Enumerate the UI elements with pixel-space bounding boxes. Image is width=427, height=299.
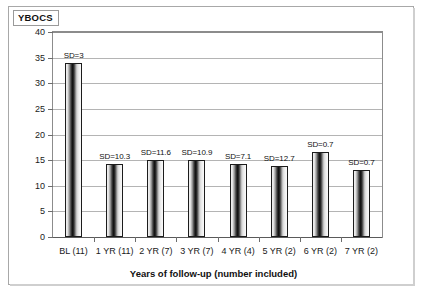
bar-sd-annotation: SD=12.7 — [264, 154, 295, 163]
y-axis-tick-label: 40 — [5, 27, 45, 37]
bar-sd-annotation: SD=10.3 — [99, 152, 130, 161]
x-axis-tick — [218, 237, 219, 242]
gridline — [53, 32, 382, 33]
y-axis-tick-label: 25 — [5, 104, 45, 114]
chart-title: YBOCS — [18, 12, 53, 23]
bar — [271, 166, 288, 237]
x-axis-category-label: BL (11) — [59, 246, 88, 256]
y-axis-tick-label: 35 — [5, 53, 45, 63]
x-axis-tick — [176, 237, 177, 242]
x-axis-category-label: 3 YR (7) — [180, 246, 213, 256]
y-axis-tick-label: 5 — [5, 206, 45, 216]
x-axis-tick — [341, 237, 342, 242]
gridline — [53, 211, 382, 212]
x-axis-category-label: 1 YR (11) — [96, 246, 134, 256]
y-axis-tick-label: 0 — [5, 232, 45, 242]
bar-sd-annotation: SD=10.9 — [182, 148, 213, 157]
x-axis-tick — [135, 237, 136, 242]
y-axis-tick — [48, 109, 53, 110]
y-axis-tick — [48, 83, 53, 84]
x-axis-title-label: Years of follow-up (number included) — [130, 268, 297, 279]
y-axis-tick — [48, 160, 53, 161]
x-axis-tick — [300, 237, 301, 242]
y-axis-tick — [48, 135, 53, 136]
y-axis-tick — [48, 32, 53, 33]
y-axis-tick — [48, 237, 53, 238]
bar — [147, 160, 164, 237]
x-axis-category-label: 7 YR (2) — [345, 246, 378, 256]
bar — [230, 164, 247, 237]
gridline — [53, 186, 382, 187]
y-axis-tick — [48, 186, 53, 187]
bar — [312, 152, 329, 237]
x-axis-tick — [94, 237, 95, 242]
plot-area: 0510152025303540SD=3BL (11)SD=10.31 YR (… — [52, 31, 383, 238]
x-axis-category-label: 2 YR (7) — [139, 246, 172, 256]
bar — [353, 170, 370, 237]
bar — [65, 63, 82, 237]
bar-sd-annotation: SD=7.1 — [225, 152, 251, 161]
chart-title-box: YBOCS — [13, 10, 59, 26]
y-axis-tick-label: 20 — [5, 130, 45, 140]
y-axis-tick-label: 15 — [5, 155, 45, 165]
bar — [188, 160, 205, 237]
figure-root: YBOCS 0510152025303540SD=3BL (11)SD=10.3… — [0, 0, 427, 299]
y-axis-tick-label: 10 — [5, 181, 45, 191]
bar — [106, 164, 123, 237]
x-axis-category-label: 5 YR (2) — [263, 246, 296, 256]
y-axis-tick — [48, 211, 53, 212]
x-axis-category-label: 4 YR (4) — [221, 246, 254, 256]
gridline — [53, 58, 382, 59]
x-axis-category-label: 6 YR (2) — [304, 246, 337, 256]
gridline — [53, 109, 382, 110]
bar-sd-annotation: SD=0.7 — [307, 140, 333, 149]
y-axis-tick-label: 30 — [5, 78, 45, 88]
gridline — [53, 135, 382, 136]
x-axis-tick — [259, 237, 260, 242]
bar-sd-annotation: SD=0.7 — [348, 158, 374, 167]
y-axis-tick — [48, 58, 53, 59]
bar-sd-annotation: SD=11.6 — [141, 148, 171, 157]
bar-sd-annotation: SD=3 — [64, 51, 84, 60]
x-axis-title: Years of follow-up (number included) — [0, 268, 427, 279]
gridline — [53, 83, 382, 84]
